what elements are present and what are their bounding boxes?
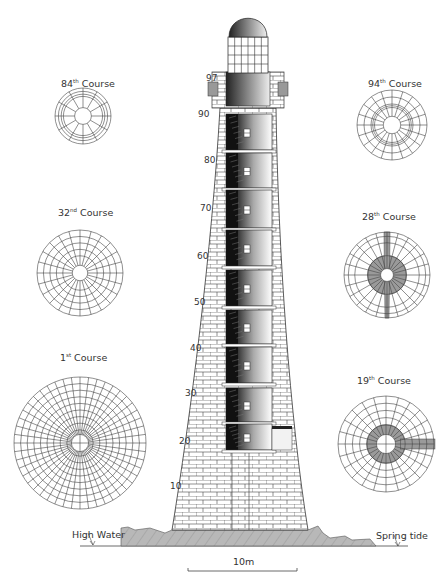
height-tick-60: 60 bbox=[197, 252, 208, 261]
height-tick-80: 80 bbox=[204, 156, 215, 165]
chamber-8 bbox=[222, 388, 276, 425]
entrance-passage bbox=[272, 428, 292, 450]
height-tick-50: 50 bbox=[194, 298, 205, 307]
height-tick-90: 90 bbox=[198, 110, 209, 119]
height-tick-30: 30 bbox=[185, 389, 196, 398]
course-28-plan bbox=[344, 232, 430, 318]
scale-bar bbox=[188, 568, 297, 571]
course-19-plan bbox=[338, 396, 435, 492]
high-water-label: High Water bbox=[72, 530, 125, 540]
chamber-7 bbox=[222, 347, 276, 386]
height-tick-70: 70 bbox=[200, 204, 211, 213]
course-32-label: 32nd Course bbox=[58, 208, 113, 218]
course-84-label: 84th Course bbox=[61, 79, 115, 89]
chamber-3 bbox=[222, 190, 276, 231]
height-tick-97: 97 bbox=[206, 74, 217, 83]
course-32-plan bbox=[37, 230, 123, 316]
lighthouse-diagram: 84th Course32nd Course1st Course94th Cou… bbox=[0, 0, 448, 583]
lantern bbox=[228, 18, 268, 73]
height-tick-20: 20 bbox=[179, 437, 190, 446]
course-94-label: 94th Course bbox=[368, 79, 422, 89]
chamber-5 bbox=[222, 270, 276, 309]
course-28-label: 28th Course bbox=[362, 212, 416, 222]
spring-tide-label: Spring tide bbox=[376, 531, 428, 541]
course-19-label: 19th Course bbox=[357, 376, 411, 386]
chamber-9 bbox=[222, 424, 276, 453]
lighthouse-tower bbox=[80, 18, 408, 571]
chamber-4 bbox=[222, 230, 276, 269]
course-84-plan bbox=[55, 88, 111, 144]
scale-bar-label: 10m bbox=[233, 557, 254, 567]
height-tick-40: 40 bbox=[190, 344, 201, 353]
chamber-2 bbox=[222, 153, 276, 191]
course-94-plan bbox=[357, 90, 427, 160]
chamber-6 bbox=[222, 310, 276, 347]
course-1-label: 1st Course bbox=[60, 353, 107, 363]
course-1-plan bbox=[14, 377, 146, 509]
chamber-1 bbox=[222, 114, 276, 153]
height-tick-10: 10 bbox=[170, 482, 181, 491]
gallery bbox=[208, 72, 288, 108]
dome bbox=[229, 18, 267, 37]
